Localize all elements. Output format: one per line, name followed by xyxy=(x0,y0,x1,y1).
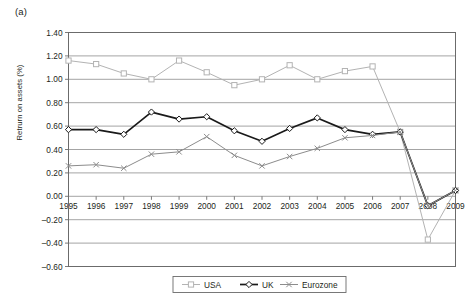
legend-label: Eurozone xyxy=(302,280,338,290)
y-tick-label: –0.20 xyxy=(42,215,63,225)
data-point-open-square xyxy=(176,58,181,63)
x-tick-label: 2003 xyxy=(280,201,299,211)
line-chart: –0.60–0.40–0.200.000.200.400.600.801.001… xyxy=(0,0,472,301)
x-tick-label: 2002 xyxy=(253,201,272,211)
data-point-filled-diamond xyxy=(204,114,210,120)
data-point-open-square xyxy=(315,77,320,82)
y-tick-label: 1.40 xyxy=(46,28,63,38)
x-tick-label: 2004 xyxy=(308,201,327,211)
y-axis-ticks: –0.60–0.40–0.200.000.200.400.600.801.001… xyxy=(42,28,69,272)
data-point-filled-diamond xyxy=(259,138,265,144)
y-tick-label: 0.40 xyxy=(46,145,63,155)
data-point-open-square xyxy=(149,77,154,82)
legend-label: UK xyxy=(262,280,274,290)
legend-label: USA xyxy=(204,280,222,290)
gridlines xyxy=(69,33,456,267)
data-point-filled-diamond xyxy=(93,127,99,133)
data-point-open-square xyxy=(66,58,71,63)
x-axis-ticks: 1995199619971998199920002001200220032004… xyxy=(59,196,465,211)
data-point-x-cross xyxy=(204,134,209,139)
chart-legend: USAUKEurozone xyxy=(173,277,346,293)
x-tick-label: 2006 xyxy=(363,201,382,211)
x-tick-label: 1998 xyxy=(142,201,161,211)
data-point-open-square xyxy=(370,64,375,69)
series-uk xyxy=(65,109,458,209)
data-point-filled-diamond xyxy=(65,127,71,133)
data-point-open-square xyxy=(204,70,209,75)
data-point-open-square xyxy=(287,63,292,68)
y-tick-label: 1.00 xyxy=(46,74,63,84)
series-line xyxy=(69,61,456,240)
data-point-open-square xyxy=(259,77,264,82)
data-point-filled-diamond xyxy=(369,131,375,137)
data-point-x-cross xyxy=(315,146,320,151)
data-point-filled-diamond xyxy=(342,127,348,133)
data-point-x-cross xyxy=(232,153,237,158)
data-point-open-square xyxy=(188,282,193,287)
x-tick-label: 1999 xyxy=(170,201,189,211)
data-point-x-cross xyxy=(287,154,292,159)
data-point-filled-diamond xyxy=(314,115,320,121)
y-tick-label: 0.60 xyxy=(46,121,63,131)
x-tick-label: 1997 xyxy=(115,201,134,211)
series-usa xyxy=(66,58,458,242)
data-point-x-cross xyxy=(259,163,264,168)
x-tick-label: 2000 xyxy=(197,201,216,211)
data-point-open-square xyxy=(342,69,347,74)
y-tick-label: 0.20 xyxy=(46,168,63,178)
data-point-filled-diamond xyxy=(231,128,237,134)
y-tick-label: 1.20 xyxy=(46,51,63,61)
y-tick-label: –0.40 xyxy=(42,238,63,248)
data-point-open-square xyxy=(94,61,99,66)
figure-panel-a: (a) Retrurn on assets (%) –0.60–0.40–0.2… xyxy=(0,0,472,301)
x-tick-label: 2005 xyxy=(336,201,355,211)
data-point-open-square xyxy=(425,237,430,242)
data-point-filled-diamond xyxy=(176,116,182,122)
y-tick-label: –0.60 xyxy=(42,262,63,272)
data-series xyxy=(65,58,458,242)
y-tick-label: 0.80 xyxy=(46,98,63,108)
x-tick-label: 1996 xyxy=(87,201,106,211)
data-point-open-square xyxy=(121,71,126,76)
data-point-open-square xyxy=(232,83,237,88)
y-tick-label: 0.00 xyxy=(46,191,63,201)
x-tick-label: 2007 xyxy=(391,201,410,211)
x-tick-label: 2001 xyxy=(225,201,244,211)
